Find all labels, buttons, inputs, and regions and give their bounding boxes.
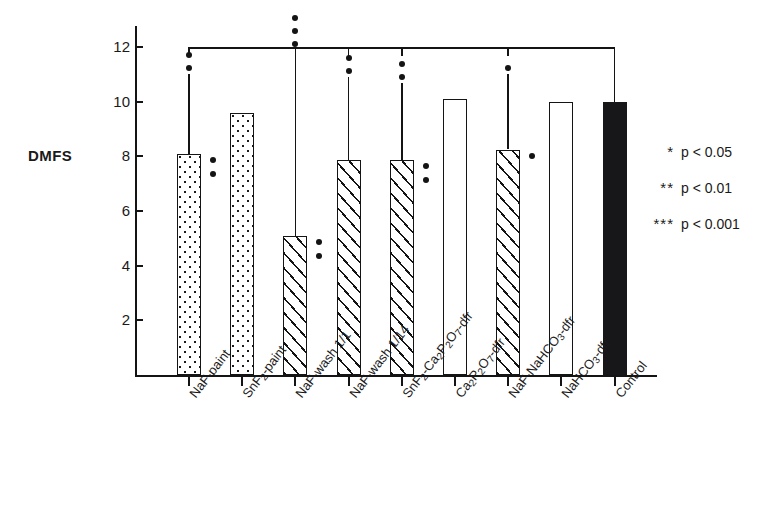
error-bar — [295, 50, 297, 236]
legend-row: **p < 0.01 — [640, 179, 770, 196]
legend-p-value-text: p < 0.05 — [681, 144, 732, 160]
x-tick-mark — [454, 377, 456, 386]
y-tick-label: 2 — [96, 312, 130, 327]
error-bar — [401, 83, 403, 161]
significance-star — [292, 28, 298, 34]
significance-star-side — [210, 171, 216, 177]
error-bar — [507, 74, 509, 149]
legend-p-value-text: p < 0.01 — [681, 180, 732, 196]
legend-row: *p < 0.05 — [640, 143, 770, 160]
significance-star — [186, 65, 192, 71]
y-axis-title: DMFS — [28, 147, 72, 164]
significance-star — [292, 15, 298, 21]
x-tick-mark — [348, 377, 350, 386]
bar-naf-paint[interactable] — [177, 154, 201, 375]
y-tick-label: 12 — [96, 39, 130, 54]
x-tick-mark — [188, 377, 190, 386]
legend-star-symbol: *** — [640, 215, 681, 232]
y-tick-label: 8 — [96, 148, 130, 163]
error-bar — [348, 77, 350, 160]
y-tick-mark — [135, 101, 143, 103]
x-tick-mark — [614, 377, 616, 386]
y-tick-label: 10 — [96, 94, 130, 109]
significance-legend: *p < 0.05**p < 0.01***p < 0.001 — [640, 143, 770, 251]
bracket-leg — [507, 47, 509, 56]
y-tick-mark — [135, 210, 143, 212]
significance-star-side — [316, 239, 322, 245]
y-axis-line — [135, 26, 137, 377]
bracket-leg — [401, 47, 403, 56]
significance-star-side — [316, 253, 322, 259]
legend-star-symbol: * — [640, 143, 681, 160]
significance-star — [186, 52, 192, 58]
significance-star-side — [529, 153, 535, 159]
bar-control[interactable] — [603, 102, 627, 375]
legend-star-symbol: ** — [640, 179, 681, 196]
significance-star — [505, 65, 511, 71]
significance-star-side — [423, 163, 429, 169]
significance-star-side — [210, 157, 216, 163]
chart-canvas: DMFS 12108642 NaF-paintSnF2-paintNaF-was… — [0, 0, 771, 510]
significance-star — [346, 55, 352, 61]
error-bar — [188, 74, 190, 153]
x-tick-mark — [401, 377, 403, 386]
legend-p-value-text: p < 0.001 — [681, 216, 740, 232]
bar-snf2-paint[interactable] — [230, 113, 254, 375]
y-tick-mark — [135, 46, 143, 48]
y-tick-label: 6 — [96, 203, 130, 218]
y-tick-mark — [135, 265, 143, 267]
y-tick-label: 4 — [96, 258, 130, 273]
significance-star — [292, 41, 298, 47]
significance-star — [399, 61, 405, 67]
bracket-leg — [614, 47, 616, 102]
significance-star — [346, 68, 352, 74]
significance-star — [399, 74, 405, 80]
y-tick-mark — [135, 319, 143, 321]
y-tick-mark — [135, 155, 143, 157]
legend-row: ***p < 0.001 — [640, 215, 770, 232]
significance-star-side — [423, 177, 429, 183]
